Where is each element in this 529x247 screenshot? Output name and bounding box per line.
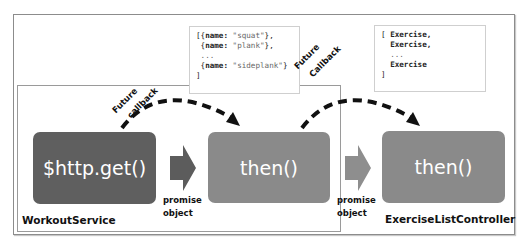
dashed-callback-arrow-icon	[302, 100, 420, 128]
workout-service-label: WorkoutService	[22, 214, 116, 226]
right-arrow-icon	[170, 145, 196, 191]
promise-object-label: promiseobject	[163, 194, 202, 220]
connectors	[0, 0, 529, 247]
promise-object-label: promiseobject	[337, 194, 376, 220]
right-arrow-icon	[345, 145, 371, 191]
exercise-list-controller-label: ExerciseListController	[385, 213, 515, 225]
